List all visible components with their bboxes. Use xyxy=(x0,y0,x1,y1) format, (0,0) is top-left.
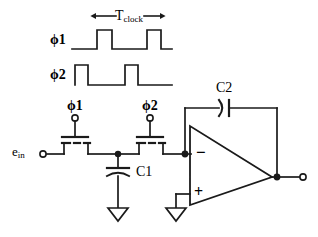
input-terminal-ein[interactable] xyxy=(40,151,46,157)
tclock-base: T xyxy=(115,8,124,23)
figure-canvas: Tclock ϕ1 ϕ2 ϕ1 ϕ2 ein C1 C2 − + xyxy=(0,0,318,237)
tclock-label: Tclock xyxy=(115,9,143,24)
opamp-inverting-sign: − xyxy=(196,144,206,161)
waveform-label-phi1: ϕ1 xyxy=(50,33,66,47)
gate-label-phi2: ϕ2 xyxy=(142,99,158,113)
opamp-noninverting-ground-lead xyxy=(176,194,190,208)
ground-symbol-c1 xyxy=(108,208,128,221)
capacitor-label-c2: C2 xyxy=(216,81,232,95)
waveform-phi2 xyxy=(75,65,172,85)
circuit-schematic-svg xyxy=(0,0,318,237)
tclock-subscript: clock xyxy=(124,14,144,24)
junction-dot-output xyxy=(274,174,281,181)
waveform-label-phi2: ϕ2 xyxy=(50,68,66,82)
capacitor-label-c1: C1 xyxy=(136,165,152,179)
gate-label-phi1: ϕ1 xyxy=(67,99,83,113)
mosfet-switch-phi1[interactable] xyxy=(47,137,118,154)
ground-symbol-opamp-plus xyxy=(166,208,186,221)
mosfet-switch-phi2[interactable] xyxy=(118,137,185,154)
input-label-ein: ein xyxy=(12,145,25,160)
capacitor-c1 xyxy=(107,154,129,208)
waveform-phi1 xyxy=(72,30,172,49)
output-terminal[interactable] xyxy=(300,174,306,180)
input-label-subscript: in xyxy=(18,150,25,160)
gate-terminal-phi2[interactable] xyxy=(147,115,153,137)
opamp-noninverting-sign: + xyxy=(194,184,203,200)
gate-terminal-phi1[interactable] xyxy=(72,115,78,137)
